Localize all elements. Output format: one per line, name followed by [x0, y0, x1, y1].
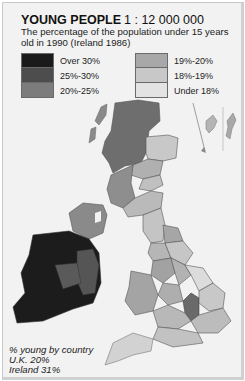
legend-swatch — [21, 83, 54, 98]
legend-swatch — [135, 83, 168, 98]
title-text: YOUNG PEOPLE — [21, 13, 121, 27]
legend-swatch — [21, 53, 54, 68]
country-note: % young by country U.K. 20% Ireland 31% — [9, 345, 93, 375]
legend-swatch — [135, 68, 168, 83]
legend-item: 25%-30% — [21, 68, 100, 83]
legend-item: Over 30% — [21, 53, 100, 68]
legend-label: 20%-25% — [60, 86, 99, 96]
legend-left: Over 30% 25%-30% 20%-25% — [21, 53, 100, 98]
map-subtitle: The percentage of the population under 1… — [21, 27, 241, 48]
map-frame: YOUNG PEOPLE1 : 12 000 000 The percentag… — [2, 2, 244, 380]
legend-item: Under 18% — [135, 83, 219, 98]
note-ireland: Ireland 31% — [9, 365, 93, 375]
legend-swatch — [135, 53, 168, 68]
region-grampian — [146, 135, 178, 161]
legend-swatch — [21, 68, 54, 83]
legend-item: 20%-25% — [21, 83, 100, 98]
legend-label: 18%-19% — [174, 71, 213, 81]
map-scale: 1 : 12 000 000 — [124, 13, 204, 27]
legend-item: 19%-20% — [135, 53, 219, 68]
legend-label: 19%-20% — [174, 56, 213, 66]
legend-label: Over 30% — [60, 56, 100, 66]
shetland-inset — [193, 103, 236, 153]
legend-label: Under 18% — [174, 86, 219, 96]
legend-item: 18%-19% — [135, 68, 219, 83]
legend-label: 25%-30% — [60, 71, 99, 81]
map-title: YOUNG PEOPLE1 : 12 000 000 — [21, 13, 204, 27]
legend-right: 19%-20% 18%-19% Under 18% — [135, 53, 219, 98]
